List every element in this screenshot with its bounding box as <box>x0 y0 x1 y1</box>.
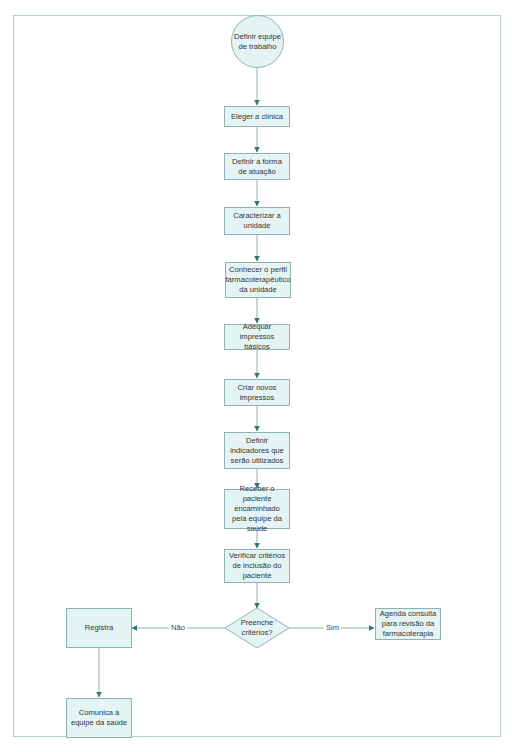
step-verificar-criterios: Verificar critérios de inclusão do pacie… <box>224 549 290 583</box>
step-label: Definir a forma de atuação <box>227 157 287 177</box>
step-eleger-clinica: Eleger a clínica <box>224 106 290 127</box>
step-label: Agenda consulta para revisão da farmacot… <box>378 609 438 639</box>
step-label: Criar novos impressos <box>227 383 287 403</box>
step-label: Adequar impressos básicos <box>227 322 287 352</box>
decision-text: Preenche critérios? <box>225 618 289 638</box>
step-label: Comunica a equipe da saúde <box>69 708 129 728</box>
step-adequar-impressos: Adequar impressos básicos <box>224 324 290 350</box>
step-conhecer-perfil: Conhecer o perfil farmacoterapêutico da … <box>225 262 291 298</box>
step-label: Registra <box>85 623 113 633</box>
start-node: Definir equipe de trabalho <box>231 15 284 68</box>
step-label: Definir indicadores que serão utilizados <box>227 436 287 466</box>
step-receber-paciente: Receber o paciente encaminhado pela equi… <box>224 489 290 529</box>
step-label: Receber o paciente encaminhado pela equi… <box>227 484 287 534</box>
step-label: Eleger a clínica <box>231 112 283 122</box>
step-agenda-consulta: Agenda consulta para revisão da farmacot… <box>375 608 441 640</box>
edge-label-no: Não <box>169 623 187 632</box>
step-caracterizar: Caracterizar a unidade <box>224 207 290 235</box>
step-definir-indicadores: Definir indicadores que serão utilizados <box>224 432 290 469</box>
decision-label: Preenche critérios? <box>225 608 289 648</box>
step-registra: Registra <box>66 608 132 648</box>
step-label: Verificar critérios de inclusão do pacie… <box>227 551 287 581</box>
step-comunica-equipe: Comunica a equipe da saúde <box>66 698 132 738</box>
step-label: Caracterizar a unidade <box>227 211 287 231</box>
start-label: Definir equipe de trabalho <box>234 32 281 52</box>
step-criar-impressos: Criar novos impressos <box>224 379 290 406</box>
step-definir-forma: Definir a forma de atuação <box>224 153 290 180</box>
edge-label-yes: Sim <box>324 623 341 632</box>
step-label: Conhecer o perfil farmacoterapêutico da … <box>226 265 291 295</box>
